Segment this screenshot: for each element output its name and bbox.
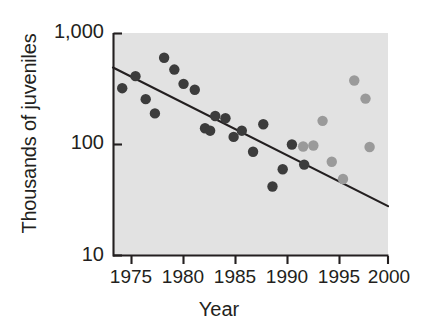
data-point [248,147,258,157]
data-point [360,93,370,103]
data-point [364,142,374,152]
data-point [237,125,247,135]
data-point [327,157,337,167]
data-point [190,85,200,95]
data-point [338,174,348,184]
data-point [210,111,220,121]
data-point [178,79,188,89]
data-point [150,108,160,118]
data-point [298,141,308,151]
chart-figure: Thousands of juveniles 1,000 100 10 1975… [0,0,438,331]
data-point [130,71,140,81]
data-point [258,119,268,129]
data-point [349,75,359,85]
data-point [159,53,169,63]
data-point [205,125,215,135]
data-point [220,113,230,123]
data-point [141,94,151,104]
plot-canvas [0,0,438,331]
data-point [287,139,297,149]
data-point [169,64,179,74]
plot-area-grain [113,33,388,256]
data-point [117,83,127,93]
data-point [278,164,288,174]
data-point [228,132,238,142]
x-axis-ticks [132,256,389,264]
data-point [317,116,327,126]
data-point [299,159,309,169]
data-point [308,140,318,150]
data-point [267,181,277,191]
